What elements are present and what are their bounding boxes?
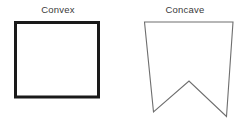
- shapes-canvas: [0, 0, 241, 123]
- convex-square-shape: [16, 23, 99, 98]
- convex-shape-label: Convex: [0, 4, 116, 16]
- shape-comparison-figure: Convex Concave: [0, 0, 241, 123]
- concave-shape-label: Concave: [132, 4, 238, 16]
